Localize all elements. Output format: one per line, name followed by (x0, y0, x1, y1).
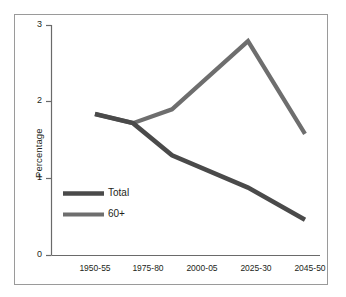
y-axis-title: Percentage (33, 128, 44, 178)
x-tick-label-2000-05: 2000-05 (172, 263, 232, 273)
chart-figure: Percentage 3 2 1 0 1950-55 1975-80 2000-… (0, 0, 346, 297)
y-tick-label-3: 3 (26, 19, 42, 29)
x-tick-label-1950-55: 1950-55 (65, 263, 125, 273)
line-chart-plot (0, 0, 346, 297)
series-line-total (95, 114, 305, 220)
y-tick-label-0: 0 (26, 249, 42, 259)
legend-label-60plus: 60+ (108, 208, 125, 219)
y-tick-label-1: 1 (26, 172, 42, 182)
x-tick-label-2025-30: 2025-30 (226, 263, 286, 273)
y-tick-label-2: 2 (26, 95, 42, 105)
x-tick-label-1975-80: 1975-80 (118, 263, 178, 273)
legend-label-total: Total (108, 187, 129, 198)
x-tick-label-2045-50: 2045-50 (280, 263, 340, 273)
